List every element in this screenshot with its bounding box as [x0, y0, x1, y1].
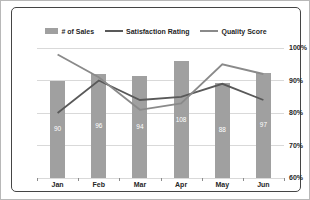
axis-tick-mark: [284, 178, 285, 181]
axis-tick-mark: [243, 178, 244, 181]
x-axis-tick-label: May: [207, 181, 237, 188]
legend-label-sales: # of Sales: [61, 28, 94, 35]
axis-tick-mark: [202, 178, 203, 181]
bar-series-swatch-icon: [45, 28, 58, 34]
axis-tick-mark: [78, 178, 79, 181]
legend-item-sales: # of Sales: [45, 28, 94, 35]
x-axis-tick-label: Jan: [43, 181, 73, 188]
legend-item-quality: Quality Score: [200, 28, 266, 35]
x-axis-tick-label: Apr: [166, 181, 196, 188]
y-axis-tick-label: 90%: [289, 77, 310, 85]
y-axis-tick-label: 100%: [289, 44, 310, 52]
plot-area: 9096941088897: [37, 48, 284, 178]
line-satisfaction-rating: [58, 81, 264, 114]
legend-label-satisfaction: Satisfaction Rating: [126, 28, 189, 35]
axis-tick-mark: [119, 178, 120, 181]
axis-tick-mark: [37, 178, 38, 181]
chart-frame: # of Sales Satisfaction Rating Quality S…: [11, 7, 301, 192]
axis-tick-mark: [161, 178, 162, 181]
chart-legend: # of Sales Satisfaction Rating Quality S…: [12, 24, 300, 38]
category-axis: JanFebMarAprMayJun: [37, 181, 284, 191]
right-value-axis: 100%90%80%70%60%: [289, 48, 310, 178]
legend-item-satisfaction: Satisfaction Rating: [105, 28, 189, 35]
y-axis-tick-label: 70%: [289, 142, 310, 150]
chart-screenshot: # of Sales Satisfaction Rating Quality S…: [0, 0, 310, 200]
legend-label-quality: Quality Score: [221, 28, 266, 35]
line-series-swatch-icon: [105, 30, 123, 32]
line-series-swatch-icon: [200, 30, 218, 32]
x-axis-tick-label: Feb: [84, 181, 114, 188]
x-axis-tick-label: Jun: [248, 181, 278, 188]
y-axis-tick-label: 60%: [289, 174, 310, 182]
x-axis-tick-label: Mar: [125, 181, 155, 188]
line-series-layer: [37, 48, 284, 178]
line-quality-score: [58, 55, 264, 110]
y-axis-tick-label: 80%: [289, 109, 310, 117]
